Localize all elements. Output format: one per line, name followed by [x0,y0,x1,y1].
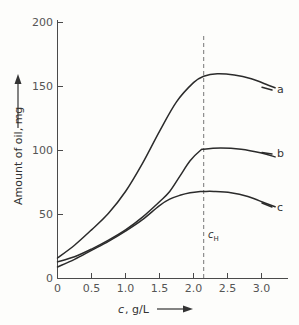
x-axis-title-units: , g/L [125,303,150,316]
y-tick-label-50: 50 [39,208,53,221]
x-axis-title-group: c , g/L [118,303,193,316]
chart-figure: Amount of oil, mg 200 150 100 50 0 [0,0,299,325]
x-tick-label-1p0: 1.0 [117,282,135,295]
y-axis-arrow-head [15,74,22,84]
data-curve-b [58,148,276,262]
x-tick-label-2p0: 2.0 [185,282,203,295]
y-axis-tick-labels: 200 150 100 50 0 [32,16,53,285]
x-axis-title-symbol: c [118,303,124,316]
series-label-c: c [277,201,283,214]
x-axis-ticks [58,273,262,279]
x-tick-label-0p5: 0.5 [83,282,101,295]
critical-concentration-label-subscript: H [214,235,219,243]
series-a-leader [262,87,272,90]
data-curve-a [58,74,276,258]
critical-concentration-label: c H [208,229,219,243]
y-axis-ticks [58,23,64,279]
y-axis-title-group: Amount of oil, mg [12,74,25,205]
x-tick-label-1p5: 1.5 [151,282,169,295]
chart-canvas: Amount of oil, mg 200 150 100 50 0 [0,0,299,325]
y-tick-label-100: 100 [32,144,53,157]
x-tick-label-3p0: 3.0 [253,282,271,295]
series-label-a: a [277,83,284,96]
y-tick-label-200: 200 [32,16,53,29]
x-tick-label-0: 0 [54,282,61,295]
y-tick-label-150: 150 [32,80,53,93]
x-axis-tick-labels: 0 0.5 1.0 1.5 2.0 2.5 3.0 [54,282,270,295]
x-tick-label-2p5: 2.5 [219,282,237,295]
x-axis-arrow-head [183,306,193,313]
data-curve-c [58,191,276,267]
y-tick-label-0: 0 [46,272,53,285]
series-label-b: b [277,147,284,160]
